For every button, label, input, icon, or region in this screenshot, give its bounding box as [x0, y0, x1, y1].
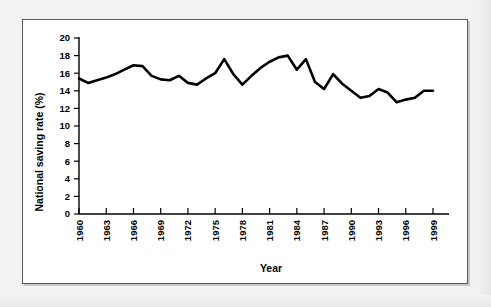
x-tick-label: 1999: [428, 220, 439, 241]
x-tick-label: 1996: [400, 220, 411, 241]
line-chart: National saving rate (%) 024681012141618…: [23, 20, 469, 285]
y-tick-label: 12: [59, 103, 70, 114]
y-tick-label: 20: [59, 32, 70, 43]
x-tick-label: 1969: [155, 220, 166, 241]
x-tick-label: 1990: [346, 220, 357, 241]
x-tick-label: 1960: [74, 220, 85, 241]
y-tick-label: 6: [65, 156, 70, 167]
y-tick-label: 10: [59, 120, 70, 131]
y-tick-label: 4: [65, 173, 71, 184]
x-tick-label: 1981: [264, 219, 275, 241]
y-tick-label: 0: [65, 208, 70, 219]
x-axis-title: Year: [260, 262, 282, 274]
y-tick-label: 14: [59, 85, 70, 96]
y-tick-label: 8: [65, 138, 70, 149]
x-tick-label: 1963: [101, 220, 112, 241]
figure-page: National saving rate (%) 024681012141618…: [0, 0, 491, 307]
data-series-line: [79, 56, 433, 103]
x-tick-label: 1984: [291, 219, 302, 241]
x-axis-tick-labels: 1960196319661969197219751978198119841987…: [74, 219, 439, 241]
y-tick-label: 16: [59, 68, 70, 79]
page-edge-shade-bottom: [0, 295, 491, 307]
page-edge-shade-right: [477, 0, 491, 307]
y-axis-tick-labels: 02468101214161820: [59, 32, 70, 219]
chart-plot-area: National saving rate (%) 024681012141618…: [23, 20, 469, 285]
y-axis-title: National saving rate (%): [33, 92, 45, 211]
x-tick-label: 1993: [373, 220, 384, 241]
x-axis-tick-marks: [79, 208, 433, 214]
chart-figure-frame: National saving rate (%) 024681012141618…: [22, 19, 468, 284]
y-tick-label: 2: [65, 191, 70, 202]
y-axis-tick-marks: [74, 38, 79, 214]
x-tick-label: 1978: [237, 220, 248, 241]
x-tick-label: 1987: [319, 220, 330, 241]
x-tick-label: 1972: [182, 220, 193, 241]
x-tick-label: 1966: [128, 220, 139, 241]
y-tick-label: 18: [59, 50, 70, 61]
x-tick-label: 1975: [210, 219, 221, 241]
